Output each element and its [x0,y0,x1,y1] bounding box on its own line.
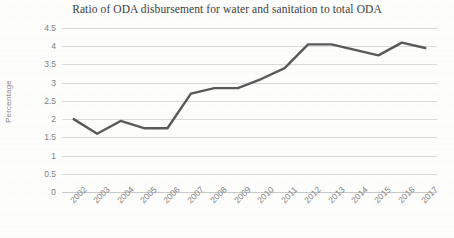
y-axis-tick-label: 4.5 [14,23,56,33]
y-axis-tick-label: 3.5 [14,59,56,69]
y-axis-tick-label: 1 [14,151,56,161]
y-axis-tick-label: 1.5 [14,132,56,142]
y-axis-tick-label: 0.5 [14,169,56,179]
y-axis-tick-label: 0 [14,187,56,197]
chart-container: Ratio of ODA disbursement for water and … [0,0,454,238]
y-axis-tick-label: 2.5 [14,96,56,106]
y-axis-tick-label: 4 [14,41,56,51]
data-series-line [62,28,437,192]
y-axis-tick-label: 2 [14,114,56,124]
series-polyline [74,43,426,134]
chart-title: Ratio of ODA disbursement for water and … [0,3,454,15]
plot-area [62,28,437,192]
y-axis-tick-label: 3 [14,78,56,88]
y-axis-title: Percentage [4,72,13,132]
